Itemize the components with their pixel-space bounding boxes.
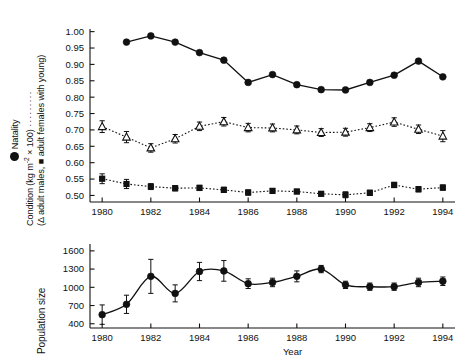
top-y-tick-label: 0.85 — [66, 75, 85, 86]
data-point — [245, 189, 251, 195]
data-point — [390, 118, 398, 125]
data-point — [439, 73, 446, 80]
data-point — [342, 87, 349, 94]
bottom-x-tick-label: 1990 — [335, 332, 356, 343]
top-x-tick-label: 1990 — [335, 206, 356, 217]
top-y-tick-label: 0.90 — [66, 59, 85, 70]
data-point — [293, 273, 300, 280]
data-point — [439, 278, 446, 285]
bottom-x-tick-label: 1992 — [384, 332, 405, 343]
bottom-y-tick-label: 1000 — [63, 282, 84, 293]
bottom-x-tick-label: 1994 — [432, 332, 453, 343]
top-y-tick-label: 0.70 — [66, 124, 85, 135]
top-y-axis-title-line3: (Δ adult males, ■ adult females with you… — [36, 55, 47, 226]
data-point — [269, 124, 277, 131]
data-point — [245, 79, 252, 86]
top-y-tick-label: 0.95 — [66, 42, 85, 53]
top-y-tick-label: 0.80 — [66, 92, 85, 103]
top-x-tick-label: 1994 — [432, 206, 453, 217]
top-y-tick-label: 0.55 — [66, 173, 85, 184]
data-point — [367, 190, 373, 196]
data-point — [318, 266, 325, 273]
natality-legend-marker — [10, 152, 19, 161]
data-point — [391, 283, 398, 290]
top-x-tick-label: 1988 — [286, 206, 307, 217]
data-point — [98, 123, 106, 130]
top-y-axis-title-line2: Condition (kg m-2 × 100) ········· — [21, 55, 36, 226]
data-point — [147, 273, 154, 280]
bottom-x-tick-label: 1988 — [286, 332, 307, 343]
data-point — [415, 58, 422, 65]
bottom-x-tick-label: 1984 — [189, 332, 210, 343]
data-point — [196, 268, 203, 275]
bottom-x-axis-title: Year — [283, 346, 302, 357]
data-point — [99, 176, 105, 182]
top-x-tick-label: 1982 — [140, 206, 161, 217]
data-point — [245, 280, 252, 287]
data-point — [317, 128, 325, 135]
data-point — [294, 188, 300, 194]
bottom-y-axis-title: Population size — [36, 288, 47, 354]
top-y-axis-title-line1: Natality — [10, 55, 21, 226]
data-point — [123, 133, 131, 140]
data-point — [220, 57, 227, 64]
data-point — [244, 124, 252, 131]
data-point — [269, 188, 275, 194]
bottom-y-tick-label: 1600 — [63, 245, 84, 256]
top-y-axis-title: Natality Condition (kg m-2 × 100) ······… — [10, 55, 47, 226]
data-point — [147, 144, 155, 151]
data-point — [196, 49, 203, 56]
data-point — [391, 72, 398, 79]
data-point — [221, 187, 227, 193]
bottom-x-tick-label: 1986 — [238, 332, 259, 343]
data-point — [172, 290, 179, 297]
top-y-tick-label: 0.75 — [66, 108, 85, 119]
top-y-tick-label: 0.60 — [66, 157, 85, 168]
data-point — [147, 32, 154, 39]
bottom-panel-svg: 1600130010007004001980198219841986198819… — [0, 232, 465, 364]
data-point — [148, 184, 154, 190]
figure-root: Natality Condition (kg m-2 × 100) ······… — [0, 0, 465, 364]
series-0 — [123, 32, 446, 93]
top-x-tick-label: 1984 — [189, 206, 210, 217]
bottom-y-tick-label: 400 — [68, 318, 84, 329]
data-point — [415, 186, 421, 192]
data-point — [172, 185, 178, 191]
series-1 — [98, 117, 446, 152]
data-point — [366, 283, 373, 290]
top-x-tick-label: 1992 — [384, 206, 405, 217]
top-panel-svg: 1.000.950.900.850.800.750.700.650.600.55… — [0, 0, 465, 232]
data-point — [99, 311, 106, 318]
bottom-x-tick-label: 1980 — [92, 332, 113, 343]
bottom-x-tick-label: 1982 — [140, 332, 161, 343]
top-x-tick-label: 1980 — [92, 206, 113, 217]
top-y-tick-label: 1.00 — [66, 26, 85, 37]
natality-condition-chart: Natality Condition (kg m-2 × 100) ······… — [0, 0, 465, 232]
data-point — [123, 181, 129, 187]
data-point — [293, 81, 300, 88]
data-point — [172, 39, 179, 46]
data-point — [342, 192, 348, 198]
data-point — [196, 185, 202, 191]
data-point — [366, 79, 373, 86]
data-point — [440, 184, 446, 190]
data-point — [269, 279, 276, 286]
data-point — [123, 39, 130, 46]
data-point — [415, 125, 423, 132]
series-2 — [99, 174, 446, 198]
data-point — [318, 86, 325, 93]
bottom-y-tick-label: 700 — [68, 300, 84, 311]
data-point — [269, 71, 276, 78]
population-size-chart: Population size 160013001000700400198019… — [0, 232, 465, 364]
data-point — [123, 301, 130, 308]
series-population — [99, 259, 446, 324]
data-point — [318, 191, 324, 197]
data-point — [439, 132, 447, 139]
data-point — [391, 182, 397, 188]
top-y-tick-label: 0.50 — [66, 190, 85, 201]
data-point — [342, 281, 349, 288]
data-point — [171, 135, 179, 142]
data-point — [415, 279, 422, 286]
data-point — [220, 268, 227, 275]
top-x-tick-label: 1986 — [238, 206, 259, 217]
